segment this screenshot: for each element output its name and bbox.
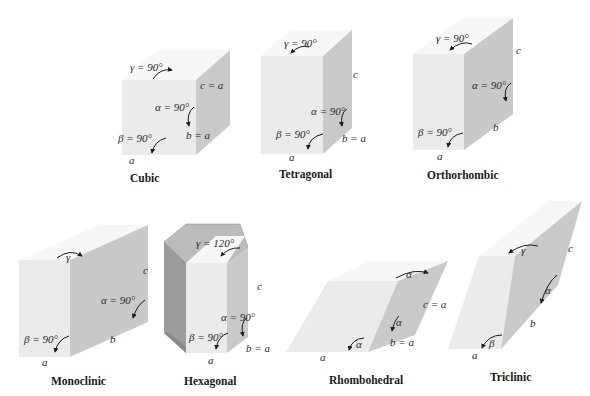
rhombohedral-a: a bbox=[320, 351, 326, 363]
orthorhombic-c: c bbox=[516, 44, 521, 56]
triclinic-cell: γ α β c b a Triclinic bbox=[448, 201, 582, 383]
monoclinic-c: c bbox=[143, 264, 148, 276]
triclinic-beta: β bbox=[488, 337, 495, 349]
orthorhombic-gamma: γ = 90° bbox=[436, 32, 469, 44]
monoclinic-cell: γ α = 90° β = 90° c b a Monoclinic bbox=[19, 225, 148, 387]
tetragonal-cell: γ = 90° α = 90° β = 90° c b = a a Orthor… bbox=[261, 30, 366, 181]
hexagonal-a: a bbox=[208, 354, 214, 366]
orthorhombic-b: b bbox=[493, 121, 499, 133]
hexagonal-b: b = a bbox=[246, 342, 270, 354]
monoclinic-alpha: α = 90° bbox=[101, 294, 136, 306]
triclinic-c: c bbox=[568, 242, 573, 254]
cubic-gamma: γ = 90° bbox=[130, 61, 163, 73]
hexagonal-cell: γ = 120° α = 90° β = 90° c b = a a Hexag… bbox=[164, 224, 270, 388]
rhombohedral-gamma: α bbox=[406, 268, 412, 280]
orthorhombic-title: Orthorhombic bbox=[427, 169, 499, 181]
cubic-cell: γ = 90° α = 90° β = 90° c = a b = a a Cu… bbox=[117, 50, 230, 184]
hexagonal-alpha: α = 90° bbox=[221, 311, 256, 323]
monoclinic-gamma: γ bbox=[66, 251, 71, 263]
crystal-systems-diagram: γ = 90° α = 90° β = 90° c = a b = a a Cu… bbox=[0, 0, 590, 396]
cubic-b: b = a bbox=[186, 129, 210, 141]
orthorhombic-a: a bbox=[437, 150, 443, 162]
hexagonal-title: Hexagonal bbox=[184, 375, 236, 388]
triclinic-a: a bbox=[472, 349, 478, 361]
triclinic-alpha: α bbox=[545, 284, 551, 296]
tetragonal-title: Tetragonal bbox=[279, 168, 332, 181]
rhombohedral-title: Rhombohedral bbox=[329, 374, 403, 386]
cubic-alpha: α = 90° bbox=[155, 101, 190, 113]
triclinic-gamma: γ bbox=[521, 244, 526, 256]
tetragonal-a: a bbox=[289, 151, 295, 163]
orthorhombic-beta: β = 90° bbox=[417, 126, 452, 138]
rhombohedral-cell: α α α c = a b = a a Rhombohedral bbox=[286, 261, 448, 386]
cubic-beta: β = 90° bbox=[117, 132, 152, 144]
cubic-a: a bbox=[129, 154, 135, 166]
monoclinic-a: a bbox=[42, 356, 48, 368]
triclinic-title: Triclinic bbox=[490, 371, 531, 383]
cubic-title: Cubic bbox=[130, 172, 159, 184]
triclinic-b: b bbox=[530, 317, 536, 329]
hexagonal-beta: β = 90° bbox=[188, 331, 223, 343]
tetragonal-alpha: α = 90° bbox=[311, 105, 346, 117]
monoclinic-beta: β = 90° bbox=[23, 333, 58, 345]
tetragonal-beta: β = 90° bbox=[275, 128, 310, 140]
tetragonal-gamma: γ = 90° bbox=[284, 37, 317, 49]
monoclinic-title: Monoclinic bbox=[51, 375, 106, 387]
hexagonal-gamma: γ = 120° bbox=[196, 237, 235, 249]
cubic-c: c = a bbox=[200, 79, 224, 91]
tetragonal-b: b = a bbox=[342, 132, 366, 144]
rhombohedral-beta: α bbox=[356, 338, 362, 350]
rhombohedral-alpha: α bbox=[396, 316, 402, 328]
monoclinic-b: b bbox=[110, 333, 116, 345]
orthorhombic-cell: γ = 90° α = 90° β = 90° c b a Orthorhomb… bbox=[413, 18, 521, 181]
hexagonal-c: c bbox=[257, 280, 262, 292]
orthorhombic-alpha: α = 90° bbox=[472, 79, 507, 91]
rhombohedral-b: b = a bbox=[390, 336, 414, 348]
tetragonal-c: c bbox=[353, 68, 358, 80]
rhombohedral-c: c = a bbox=[423, 298, 447, 310]
